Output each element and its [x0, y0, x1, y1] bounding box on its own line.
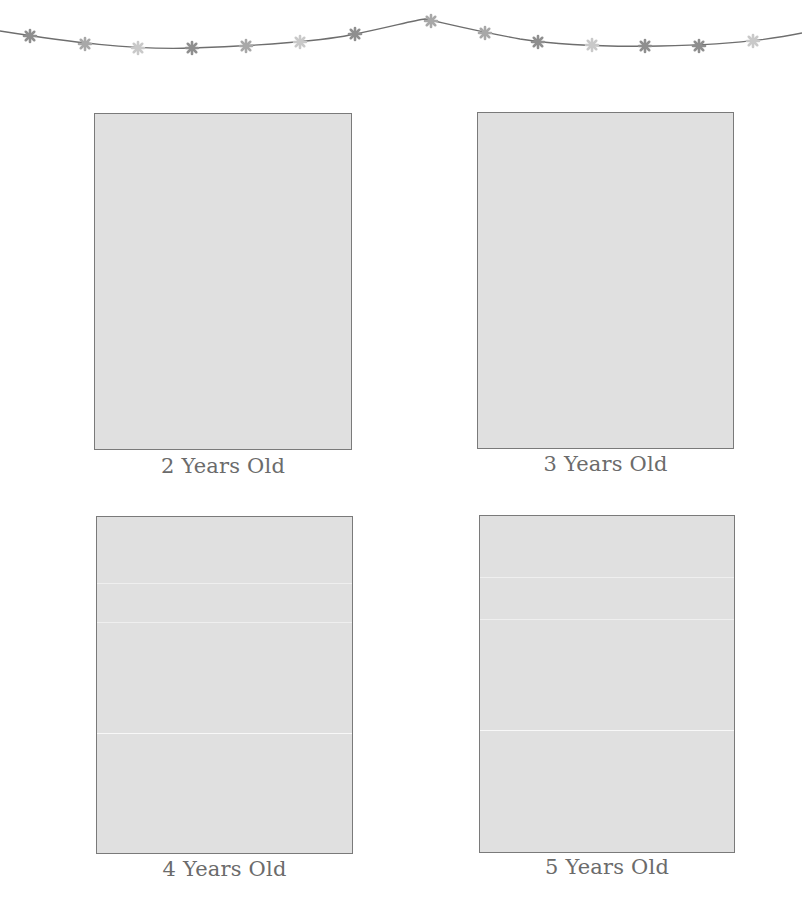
flower-icon	[132, 42, 144, 54]
flower-garland	[0, 0, 802, 70]
garland-string	[0, 19, 802, 48]
fold-line	[97, 733, 352, 734]
fold-line	[480, 577, 734, 578]
flower-icon	[693, 40, 705, 52]
flower-icon	[425, 15, 437, 27]
photo-placeholder-age-3	[477, 112, 734, 449]
flower-icon	[586, 39, 598, 51]
flower-icon	[747, 35, 759, 47]
flower-icon	[186, 42, 198, 54]
flower-icon	[479, 27, 491, 39]
flower-icon	[639, 40, 651, 52]
photo-caption-age-2: 2 Years Old	[94, 454, 352, 478]
flower-icon	[240, 40, 252, 52]
fold-line	[97, 583, 352, 584]
flower-icon	[294, 36, 306, 48]
fold-line	[480, 730, 734, 731]
photo-caption-age-4: 4 Years Old	[96, 857, 353, 881]
photo-placeholder-age-4	[96, 516, 353, 854]
fold-line	[97, 622, 352, 623]
flower-icon	[79, 38, 91, 50]
fold-line	[480, 619, 734, 620]
photo-caption-age-5: 5 Years Old	[479, 855, 735, 879]
photo-caption-age-3: 3 Years Old	[477, 452, 734, 476]
flower-icon	[24, 30, 36, 42]
photo-placeholder-age-2	[94, 113, 352, 450]
photo-placeholder-age-5	[479, 515, 735, 853]
flower-icon	[532, 36, 544, 48]
flower-icon	[349, 28, 361, 40]
garland-flowers	[24, 15, 759, 54]
